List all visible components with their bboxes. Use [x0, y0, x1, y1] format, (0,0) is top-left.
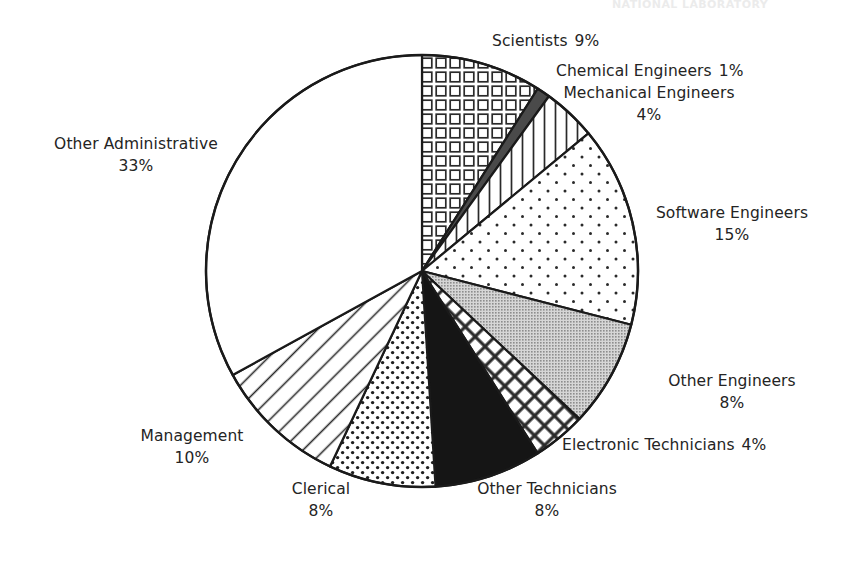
- slice-label-management-pct: 10%: [118, 447, 266, 469]
- slice-label-other-administrative-pct: 33%: [20, 155, 252, 177]
- slice-label-chemical-engineers: Chemical Engineers1%: [556, 60, 744, 82]
- slice-label-scientists-pct: 9%: [575, 32, 600, 50]
- slice-label-software-engineers-name: Software Engineers: [634, 202, 830, 224]
- slice-label-software-engineers-pct: 15%: [634, 224, 830, 246]
- slice-label-electronic-technicians-pct: 4%: [742, 436, 767, 454]
- slice-label-clerical-name: Clerical: [265, 478, 377, 500]
- slice-label-chemical-engineers-pct: 1%: [719, 62, 744, 80]
- slice-label-other-engineers-pct: 8%: [644, 392, 820, 414]
- slice-label-clerical-pct: 8%: [265, 500, 377, 522]
- chart-page: NATIONAL LABORATORY: [0, 0, 851, 571]
- slice-label-electronic-technicians-name: Electronic Technicians: [562, 436, 735, 454]
- slice-label-management: Management 10%: [118, 425, 266, 469]
- slice-label-other-engineers-name: Other Engineers: [644, 370, 820, 392]
- slice-label-scientists: Scientists9%: [492, 30, 599, 52]
- slice-label-other-engineers: Other Engineers 8%: [644, 370, 820, 414]
- slice-label-chemical-engineers-name: Chemical Engineers: [556, 62, 712, 80]
- slice-label-management-name: Management: [118, 425, 266, 447]
- slice-label-other-administrative-name: Other Administrative: [20, 133, 252, 155]
- slice-label-mechanical-engineers-pct: 4%: [556, 104, 742, 126]
- slice-label-software-engineers: Software Engineers 15%: [634, 202, 830, 246]
- slice-label-mechanical-engineers: Mechanical Engineers 4%: [556, 82, 742, 126]
- slice-label-electronic-technicians: Electronic Technicians4%: [562, 434, 766, 456]
- slice-label-other-technicians-pct: 8%: [453, 500, 641, 522]
- slice-label-scientists-name: Scientists: [492, 32, 568, 50]
- slice-label-clerical: Clerical 8%: [265, 478, 377, 522]
- slice-label-other-administrative: Other Administrative 33%: [20, 133, 252, 177]
- slice-label-mechanical-engineers-name: Mechanical Engineers: [556, 82, 742, 104]
- slice-label-other-technicians: Other Technicians 8%: [453, 478, 641, 522]
- slice-label-other-technicians-name: Other Technicians: [453, 478, 641, 500]
